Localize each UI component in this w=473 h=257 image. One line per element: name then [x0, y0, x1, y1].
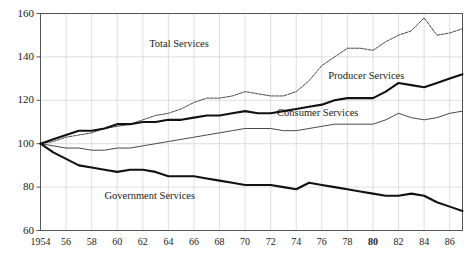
series-line — [41, 144, 463, 211]
y-axis-tick-label: 60 — [0, 225, 34, 236]
x-axis-tick-label: 86 — [430, 236, 470, 247]
series-paths — [41, 18, 463, 211]
series-label-total-services: Total Services — [149, 38, 209, 49]
series-label-consumer-services: Consumer Services — [277, 107, 358, 118]
plot-canvas — [0, 0, 473, 257]
y-axis-tick-label: 80 — [0, 181, 34, 192]
y-axis-tick-label: 100 — [0, 138, 34, 149]
series-label-producer-services: Producer Services — [328, 70, 404, 81]
chart-figure: 6080100120140160 19545658606264666870727… — [0, 0, 473, 257]
y-axis-tick-label: 120 — [0, 94, 34, 105]
series-line — [41, 111, 463, 150]
series-label-government-services: Government Services — [104, 190, 195, 201]
series-line — [41, 74, 463, 143]
y-axis-tick-label: 140 — [0, 51, 34, 62]
y-axis-tick-label: 160 — [0, 8, 34, 19]
